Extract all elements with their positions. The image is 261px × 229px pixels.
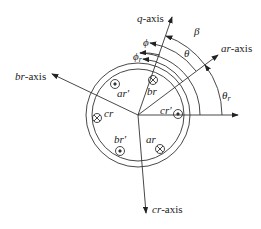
conductor-cr-label: cr (104, 107, 114, 119)
conductor-ar-cross-icon (156, 145, 165, 154)
conductor-ar-prime-label: ar′ (117, 87, 130, 99)
theta-r-label: θr (222, 89, 231, 103)
cr-axis-line (138, 115, 146, 213)
ar-axis-label: ar-axis (221, 42, 252, 54)
phi-label: ϕ (143, 36, 149, 48)
conductor-cr-prime-label: cr′ (160, 104, 172, 116)
rotor-axes-diagram: q-axis ar-axis br-axis cr-axis β θ ϕ ϕr … (0, 0, 261, 229)
q-axis-line (138, 17, 172, 115)
br-axis-label: br-axis (15, 70, 46, 82)
cr-axis-label: cr-axis (152, 203, 183, 215)
conductor-br-prime-dot-icon (116, 147, 125, 156)
theta-label: θ (184, 47, 190, 59)
phi-r-label: ϕr (133, 50, 143, 64)
theta-r-arc (205, 65, 222, 115)
conductor-br-prime-label: br′ (114, 133, 127, 145)
conductor-cr-prime-dot-icon (174, 110, 183, 119)
q-axis-label: q-axis (137, 12, 164, 24)
beta-label: β (193, 25, 200, 37)
conductor-cr-cross-icon (93, 114, 102, 123)
conductor-br-label: br (147, 85, 158, 97)
conductor-ar-label: ar (146, 133, 157, 145)
